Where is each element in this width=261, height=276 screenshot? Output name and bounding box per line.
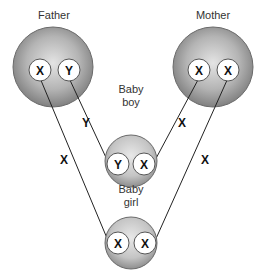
father-cell xyxy=(13,27,93,107)
mother-chromosome-x1-label: X xyxy=(195,64,203,78)
edge-label-father-y: Y xyxy=(82,116,90,130)
edge-label-father-x-girl: X xyxy=(60,153,68,167)
girl-chromosome-x2-label: X xyxy=(141,237,149,251)
inheritance-diagram: X Y X X Y X X X Father Mother Baby boy B… xyxy=(0,0,261,276)
mother-cell xyxy=(173,27,253,107)
baby-boy-label-line2: boy xyxy=(122,96,140,108)
edge-label-mother-x-girl: X xyxy=(201,153,209,167)
father-chromosome-x-label: X xyxy=(36,64,44,78)
line-mother-x-to-boy xyxy=(153,78,199,164)
baby-girl-label-line1: Baby xyxy=(118,183,144,195)
father-label: Father xyxy=(38,9,70,21)
baby-girl-label-line2: girl xyxy=(124,196,139,208)
line-father-x-to-girl xyxy=(40,78,109,243)
baby-boy-label-line1: Baby xyxy=(118,83,144,95)
boy-chromosome-x-label: X xyxy=(140,158,148,172)
edge-label-mother-x-boy: X xyxy=(178,116,186,130)
line-mother-x-to-girl xyxy=(154,78,228,243)
mother-chromosome-x2-label: X xyxy=(224,64,232,78)
mother-label: Mother xyxy=(196,9,231,21)
boy-chromosome-y-label: Y xyxy=(114,158,122,172)
girl-chromosome-x1-label: X xyxy=(114,237,122,251)
father-chromosome-y-label: Y xyxy=(65,64,73,78)
